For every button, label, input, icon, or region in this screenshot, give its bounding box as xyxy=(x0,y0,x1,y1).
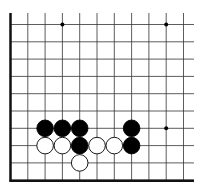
black-stone[interactable] xyxy=(71,137,88,154)
black-stone[interactable] xyxy=(123,120,140,137)
white-stone[interactable] xyxy=(89,137,106,154)
black-stone[interactable] xyxy=(37,120,54,137)
black-stone[interactable] xyxy=(71,120,88,137)
star-point-icon xyxy=(164,23,168,27)
black-stone[interactable] xyxy=(54,120,71,137)
stones-layer[interactable] xyxy=(37,120,140,171)
board-grid xyxy=(10,13,195,182)
white-stone[interactable] xyxy=(106,137,123,154)
white-stone[interactable] xyxy=(71,155,88,172)
black-stone[interactable] xyxy=(123,137,140,154)
white-stone[interactable] xyxy=(54,137,71,154)
star-point-icon xyxy=(164,126,168,130)
white-stone[interactable] xyxy=(37,137,54,154)
star-point-icon xyxy=(60,23,64,27)
go-board[interactable] xyxy=(0,0,202,193)
